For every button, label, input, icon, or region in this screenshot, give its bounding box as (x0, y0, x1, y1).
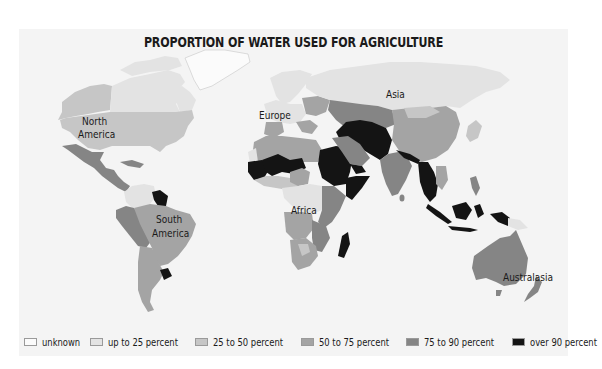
legend-label: over 90 percent (530, 336, 597, 348)
legend-label: 75 to 90 percent (424, 336, 494, 348)
legend-item-up-to-25: up to 25 percent (90, 336, 181, 348)
legend-swatch-75-to-90 (406, 338, 419, 346)
label-south-america: South (156, 213, 182, 225)
legend-item-unknown: unknown (24, 336, 76, 348)
legend-item-25-to-50: 25 to 50 percent (195, 336, 287, 348)
label-australasia: Australasia (503, 271, 553, 283)
label-europe: Europe (259, 109, 291, 121)
legend-label: 50 to 75 percent (319, 336, 389, 348)
legend-swatch-up-to-25 (90, 338, 103, 346)
legend-item-50-to-75: 50 to 75 percent (301, 336, 393, 348)
legend-item-75-to-90: 75 to 90 percent (406, 336, 498, 348)
label-north-america: North (82, 115, 107, 127)
map-legend: unknown up to 25 percent 25 to 50 percen… (24, 336, 602, 348)
map-panel: PROPORTION OF WATER USED FOR AGRICULTURE (19, 29, 568, 356)
label-south-america-2: America (152, 227, 189, 239)
label-north-america-2: America (78, 128, 115, 140)
legend-label: unknown (42, 336, 80, 348)
legend-swatch-50-to-75 (301, 338, 314, 346)
legend-label: up to 25 percent (108, 336, 178, 348)
label-asia: Asia (386, 88, 405, 100)
legend-label: 25 to 50 percent (213, 336, 283, 348)
legend-swatch-unknown (24, 338, 37, 346)
legend-swatch-25-to-50 (195, 338, 208, 346)
legend-item-over-90: over 90 percent (512, 336, 600, 348)
label-africa: Africa (291, 204, 317, 216)
region-labels: North America Europe Asia Africa South A… (19, 29, 568, 356)
legend-swatch-over-90 (512, 338, 525, 346)
